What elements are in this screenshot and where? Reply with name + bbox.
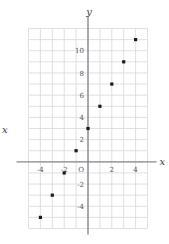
y-tick-label: 10: [75, 47, 84, 55]
x-axis-title-right: x: [160, 156, 166, 167]
data-point: [75, 149, 78, 152]
x-tick-label: 4: [133, 166, 138, 174]
origin-label: O: [78, 166, 84, 174]
data-point: [51, 194, 54, 197]
x-tick-label: 2: [110, 166, 114, 174]
data-point: [86, 127, 89, 130]
x-tick-label: -4: [37, 166, 44, 174]
y-tick-label: -2: [77, 181, 84, 189]
y-tick-label: 8: [80, 70, 84, 78]
coordinate-plane: -4-224246810-2-4O yxx: [0, 0, 169, 244]
data-point: [63, 171, 66, 174]
y-axis-title: y: [85, 6, 92, 17]
data-point: [39, 216, 42, 219]
data-point: [122, 60, 125, 63]
data-point: [98, 105, 101, 108]
x-axis-title-left: x: [2, 124, 8, 135]
y-tick-label: -4: [77, 203, 84, 211]
data-point: [134, 38, 137, 41]
y-tick-label: 6: [80, 92, 85, 100]
y-tick-label: 2: [80, 136, 84, 144]
data-point: [110, 82, 113, 85]
scatter-plot-figure: -4-224246810-2-4O yxx: [0, 0, 169, 244]
y-tick-label: 4: [80, 114, 85, 122]
